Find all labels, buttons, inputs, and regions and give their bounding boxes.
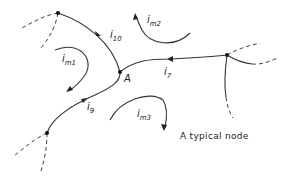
label-i7: i7 (164, 66, 172, 80)
dashed-branch-right-c (226, 97, 233, 118)
branch-i9 (47, 72, 120, 133)
node-right (225, 53, 229, 57)
dashed-branch-topleft-a (20, 13, 58, 29)
node-top-left (56, 11, 60, 15)
label-im1: im1 (62, 53, 76, 67)
arrow-im3-icon (161, 124, 167, 131)
label-node-A: A (123, 73, 131, 84)
arrow-i10-icon (95, 31, 101, 36)
dashed-branch-right-a (227, 43, 260, 55)
label-im3: im3 (137, 108, 151, 122)
node-diagram: i10 i7 i9 im1 im2 im3 A A typical node (0, 0, 288, 177)
label-i10: i10 (110, 29, 122, 43)
dashed-branch-topleft-b (40, 13, 58, 49)
mesh-loop-im1 (55, 47, 88, 90)
dashed-branch-bottomleft-a (14, 133, 47, 156)
dashed-branch-right-b (252, 58, 278, 64)
branch-i7 (120, 55, 227, 72)
arrow-im1-icon (66, 86, 73, 92)
dashed-branch-bottomleft-b (41, 133, 47, 171)
branch-right-lower (227, 55, 252, 64)
label-im2: im2 (147, 14, 162, 28)
node-bottom-left (45, 131, 49, 135)
arrow-im2-icon (133, 13, 138, 20)
node-A (118, 70, 122, 74)
figure-caption: A typical node (180, 131, 249, 141)
branch-right-down (225, 55, 227, 97)
label-i9: i9 (87, 101, 95, 115)
mesh-loop-im2 (136, 16, 190, 43)
arrow-i7-icon (167, 56, 173, 62)
